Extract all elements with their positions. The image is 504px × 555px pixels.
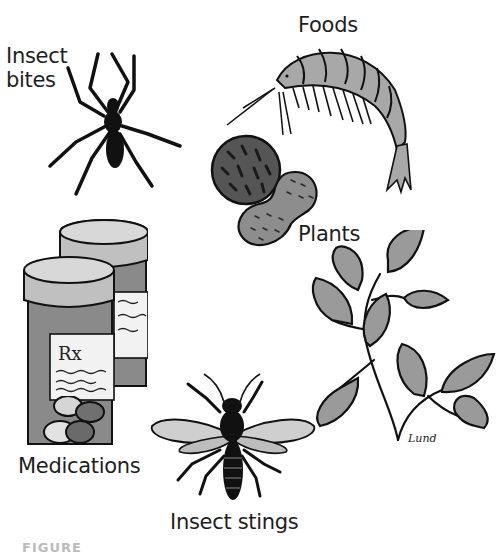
wasp-illustration — [144, 372, 324, 512]
pills-illustration — [40, 396, 120, 446]
label-medications: Medications — [18, 454, 141, 478]
label-foods: Foods — [298, 13, 358, 37]
artist-signature: Lund — [407, 432, 437, 445]
figure-caption: FIGURE — [22, 540, 82, 555]
label-insect-stings: Insect stings — [170, 510, 299, 534]
rx-text: Rx — [58, 343, 82, 364]
plant-illustration: Lund — [308, 230, 504, 450]
spider-illustration — [40, 50, 190, 200]
